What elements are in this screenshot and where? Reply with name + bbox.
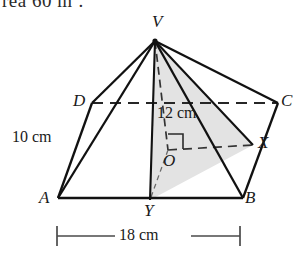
vertex-label-v: V <box>152 13 162 30</box>
vertex-label-x: X <box>258 134 268 151</box>
apex-point-v <box>152 38 157 43</box>
vertex-label-y: Y <box>144 202 153 219</box>
edge-va <box>58 41 155 198</box>
figure-canvas: rea 60 m2. <box>0 0 307 256</box>
vertex-label-a: A <box>39 189 49 206</box>
slant-measurement-label: 10 cm <box>12 129 52 145</box>
vertex-label-b: B <box>245 189 255 206</box>
base-measurement-label: 18 cm <box>119 227 159 243</box>
height-measurement-label: 12 cm <box>157 105 197 121</box>
vertex-label-c: C <box>281 92 292 109</box>
vertex-label-o: O <box>163 152 175 169</box>
vertex-label-d: D <box>73 92 85 109</box>
